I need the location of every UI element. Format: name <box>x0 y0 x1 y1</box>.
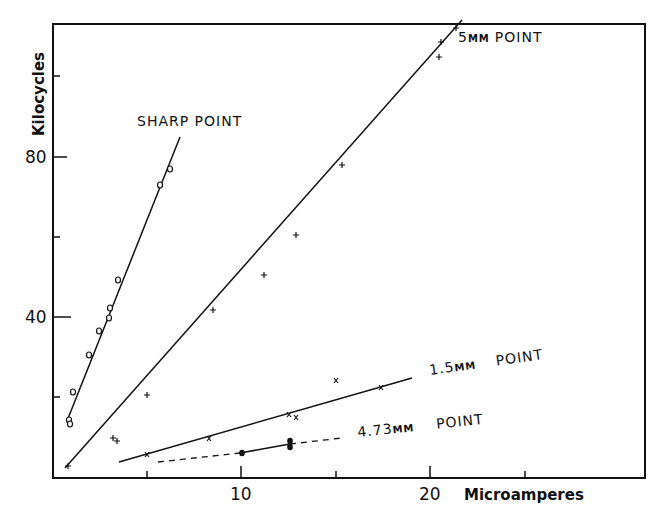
x-axis-ticks <box>147 466 525 478</box>
y-axis-title: Kilocycles <box>30 52 48 136</box>
series-1-5mm-point: 1.5MMPOINT <box>119 346 544 462</box>
series-sharp-point: SHARP POINT <box>67 113 243 427</box>
plot-frame <box>53 24 645 478</box>
y-tick-label-40: 40 <box>25 307 47 327</box>
chart: 80 40 10 20 Kilocycles Microamperes SHAR… <box>0 0 664 515</box>
sharp-point-label: SHARP POINT <box>137 113 242 129</box>
x-axis-title: Microamperes <box>464 486 584 504</box>
x-tick-label-10: 10 <box>230 484 252 504</box>
x-tick-label-20: 20 <box>419 484 441 504</box>
y-tick-label-80: 80 <box>25 147 47 167</box>
y-axis-ticks <box>53 76 71 397</box>
1-5mm-point-label: 1.5MMPOINT <box>428 346 544 378</box>
4-73mm-point-label: 4.73MMPOINT <box>357 411 485 440</box>
5mm-point-label: 5MMPOINT <box>458 29 542 45</box>
